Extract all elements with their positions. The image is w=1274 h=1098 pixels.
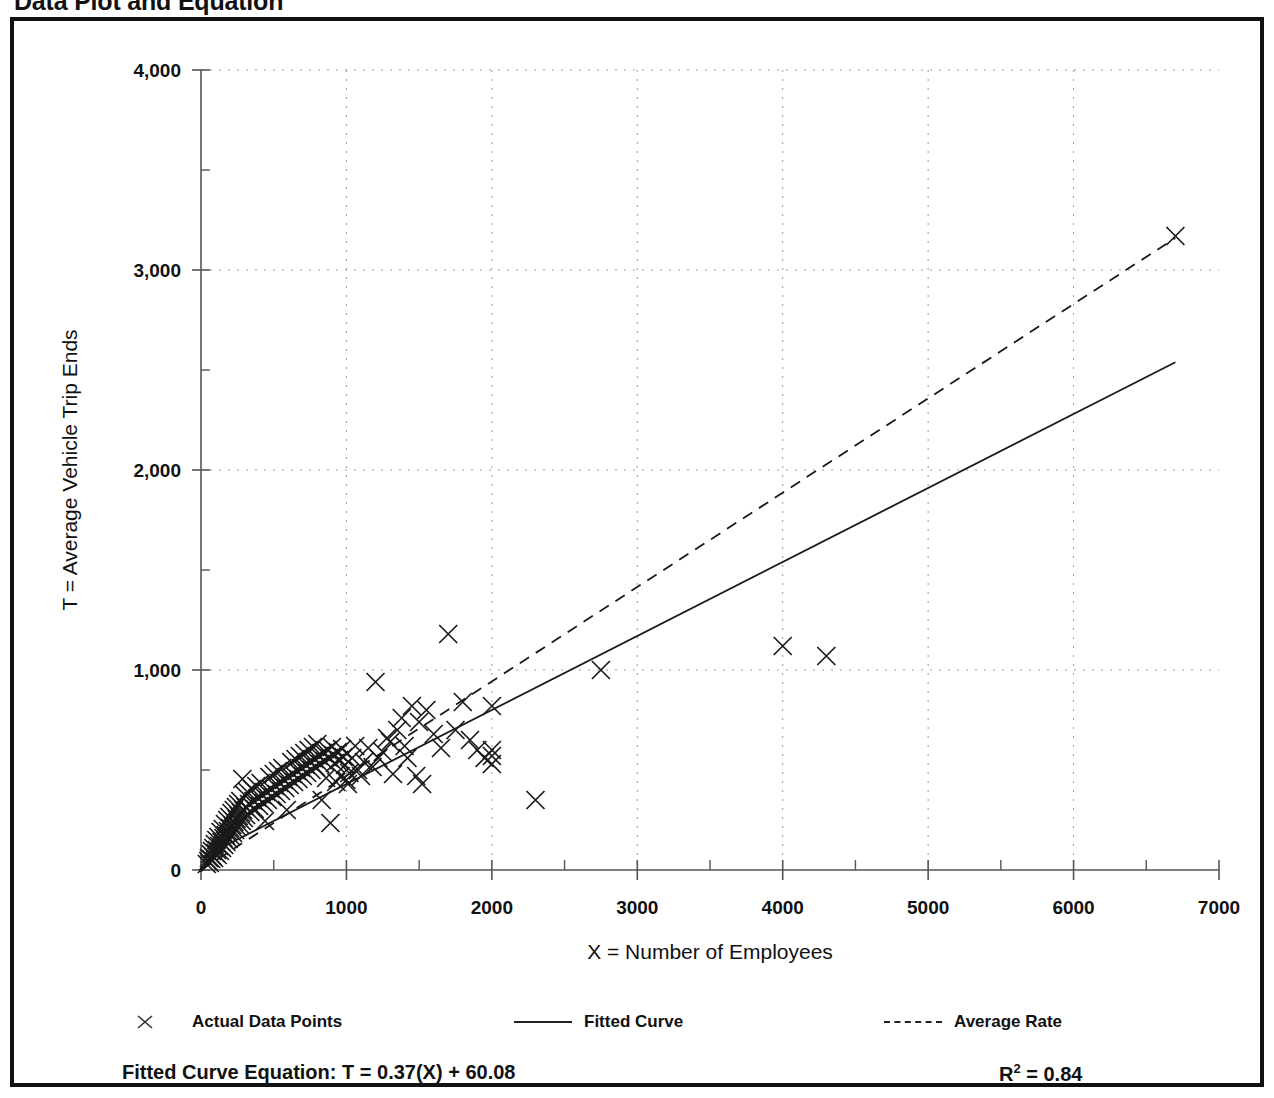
legend-label-actual-data-points: Actual Data Points [192,1012,342,1032]
r-squared-value: R2 = 0.84 [999,1061,1082,1086]
x-tick-label: 1000 [325,897,367,918]
equation-row: Fitted Curve Equation: T = 0.37(X) + 60.… [14,1061,1268,1098]
legend-label-fitted-curve: Fitted Curve [584,1012,683,1032]
y-tick-label: 1,000 [133,660,181,681]
y-axis-title: T = Average Vehicle Trip Ends [58,329,81,610]
fitted-curve-equation: Fitted Curve Equation: T = 0.37(X) + 60.… [122,1061,515,1084]
x-tick-label: 6000 [1052,897,1094,918]
figure-frame: 01,0002,0003,0004,000 010002000300040005… [10,17,1264,1087]
legend-item-actual-data-points: Actual Data Points [122,1007,342,1037]
x-axis-title: X = Number of Employees [587,940,833,963]
scatter-chart: 01,0002,0003,0004,000 010002000300040005… [14,21,1260,1083]
x-tick-label: 7000 [1198,897,1240,918]
x-tick-label: 0 [196,897,207,918]
y-tick-label: 0 [170,860,181,881]
page-title: Data Plot and Equation [14,0,283,16]
dashed-line-icon [884,1013,942,1031]
y-tick-label: 3,000 [133,260,181,281]
chart-legend: Actual Data Points Fitted Curve Average … [14,1007,1268,1049]
legend-label-average-rate: Average Rate [954,1012,1062,1032]
r-squared-number: = 0.84 [1021,1063,1083,1085]
solid-line-icon [514,1013,572,1031]
r-squared-prefix: R [999,1063,1013,1085]
y-axis-tick-labels: 01,0002,0003,0004,000 [133,60,181,881]
x-tick-label: 5000 [907,897,949,918]
legend-item-fitted-curve: Fitted Curve [514,1007,683,1037]
x-tick-label: 2000 [471,897,513,918]
x-axis-tick-labels: 01000200030004000500060007000 [196,897,1240,918]
r-squared-exponent: 2 [1013,1061,1020,1076]
legend-item-average-rate: Average Rate [884,1007,1062,1037]
x-marker-icon [122,1013,180,1031]
y-tick-label: 4,000 [133,60,181,81]
x-tick-label: 3000 [616,897,658,918]
y-tick-label: 2,000 [133,460,181,481]
x-tick-label: 4000 [762,897,804,918]
